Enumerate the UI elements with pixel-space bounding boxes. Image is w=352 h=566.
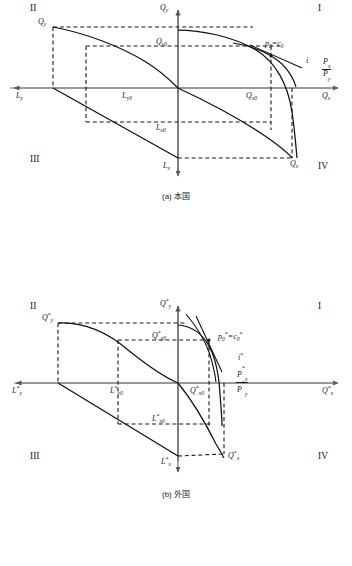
label-indifference-curve-star: i*: [238, 354, 243, 362]
axis-label-ly: Ly: [16, 92, 23, 100]
curve-x-output-quadrant-IV: [178, 88, 292, 158]
figure-caption-home: (a) 本国: [0, 190, 352, 201]
line-price-ratio-tangent: [250, 45, 302, 68]
quadrant-label-III: III: [30, 155, 40, 165]
label-price-equals-cost-star: p0*=c0*: [218, 333, 243, 341]
figure-foreign-country: II I III IV Q*y Q*x L*y L*x Q*y Q*y0 Q*x…: [0, 276, 352, 566]
label-indifference-curve: i: [306, 57, 308, 65]
figure-home-country: II I III IV Qy Qx Ly Lx Qy Qy0 Qx0 Qx Ly…: [0, 0, 352, 290]
axis-label-qy: Qy: [160, 4, 168, 12]
quadrant-label-I: I: [318, 4, 321, 14]
label-ly0-star: L*y0: [110, 387, 123, 395]
label-qx-intercept: Qx: [290, 160, 298, 168]
label-qx-intercept-star: Q*x: [228, 452, 239, 460]
axis-label-lx-star: L*x: [161, 458, 171, 466]
curve-indifference-i-star: [186, 314, 216, 382]
axis-label-ly-star: L*y: [12, 387, 22, 395]
label-lx0: Lx0: [156, 124, 166, 132]
quadrant-label-IV: IV: [318, 162, 328, 172]
curve-indifference-i: [233, 43, 296, 87]
quadrant-label-III-star: III: [30, 452, 40, 462]
label-qx0: Qx0: [246, 92, 257, 100]
axis-label-qy-star: Q*y: [160, 300, 171, 308]
label-qy-intercept: Qy: [38, 18, 46, 26]
quadrant-label-II-star: II: [30, 302, 36, 312]
label-price-ratio: Px Py: [322, 58, 331, 81]
figure-caption-foreign: (b) 外国: [0, 488, 352, 499]
axis-label-qx: Qx: [322, 92, 330, 100]
label-qy0: Qy0: [156, 38, 167, 46]
label-lx0-star: L*x0: [152, 415, 165, 423]
dash-lx-star-horizontal: [178, 454, 224, 456]
axis-label-qx-star: Q*x: [322, 387, 333, 395]
tangency-point-marker: [270, 55, 273, 58]
label-price-equals-cost: p0=c0: [265, 40, 284, 48]
label-price-ratio-star: P*x P*y: [236, 368, 248, 396]
quadrant-label-II: II: [30, 4, 36, 14]
axis-label-lx: Lx: [163, 162, 170, 170]
label-qy-intercept-star: Q*y: [42, 314, 53, 322]
tangency-point-marker-star: [208, 339, 211, 342]
quadrant-label-I-star: I: [318, 302, 321, 312]
home-country-diagram: [0, 0, 352, 250]
curve-ppf-quadrant-I: [178, 30, 297, 158]
label-ly0: Ly0: [122, 92, 132, 100]
label-qy0-star: Q*y0: [152, 332, 166, 340]
label-qx0-star: Q*x0: [190, 387, 204, 395]
quadrant-label-IV-star: IV: [318, 452, 328, 462]
